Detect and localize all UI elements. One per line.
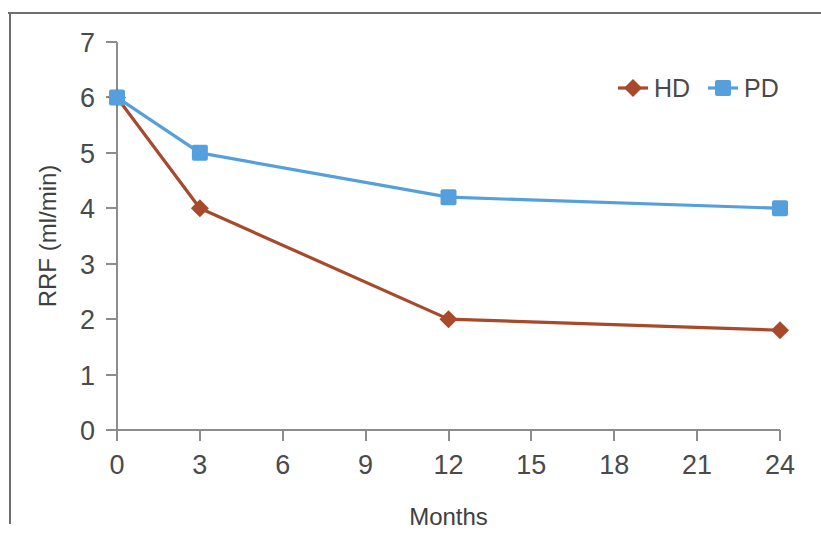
legend-marker-pd — [715, 80, 731, 96]
data-point-pd-3mo — [192, 145, 208, 161]
legend-item-hd: HD — [618, 74, 690, 102]
data-series-layer — [108, 88, 789, 339]
y-tick-label: 3 — [80, 250, 95, 280]
legend-marker-hd — [624, 79, 642, 97]
series-pd — [109, 89, 788, 216]
x-tick-label: 3 — [192, 450, 207, 480]
x-tick-label: 9 — [358, 450, 373, 480]
series-hd — [108, 88, 789, 339]
x-tick-label: 15 — [516, 450, 546, 480]
x-axis-ticks — [117, 430, 780, 441]
legend-label-hd: HD — [654, 74, 690, 102]
line-chart: 01234567 03691215182124 Months RRF (ml/m… — [0, 0, 821, 535]
data-point-pd-12mo — [441, 189, 457, 205]
y-tick-label: 1 — [80, 361, 95, 391]
chart-legend: HDPD — [618, 74, 779, 102]
data-point-pd-24mo — [772, 200, 788, 216]
legend-label-pd: PD — [744, 74, 779, 102]
x-axis-title: Months — [409, 503, 488, 530]
legend-item-pd: PD — [708, 74, 779, 102]
y-axis-tick-labels: 01234567 — [80, 28, 95, 446]
y-tick-label: 4 — [80, 194, 95, 224]
y-tick-label: 2 — [80, 305, 95, 335]
y-tick-label: 0 — [80, 416, 95, 446]
data-point-hd-24mo — [771, 321, 789, 339]
chart-figure: 01234567 03691215182124 Months RRF (ml/m… — [0, 0, 821, 535]
x-tick-label: 21 — [682, 450, 712, 480]
x-tick-label: 18 — [599, 450, 629, 480]
x-tick-label: 6 — [275, 450, 290, 480]
series-line-hd — [117, 97, 780, 330]
y-tick-label: 5 — [80, 139, 95, 169]
x-axis-tick-labels: 03691215182124 — [109, 450, 795, 480]
y-axis-title: RRF (ml/min) — [34, 165, 61, 308]
data-point-pd-0mo — [109, 89, 125, 105]
y-tick-label: 6 — [80, 83, 95, 113]
x-tick-label: 0 — [109, 450, 124, 480]
y-tick-label: 7 — [80, 28, 95, 58]
data-point-hd-12mo — [440, 310, 458, 328]
x-tick-label: 12 — [433, 450, 463, 480]
x-tick-label: 24 — [765, 450, 795, 480]
